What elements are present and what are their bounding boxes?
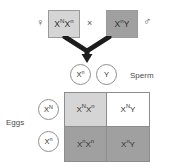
egg-gamete-1-label: XN [44, 105, 53, 114]
punnett-cell-3-label: XnXn [77, 140, 94, 149]
eggs-axis-label: Eggs [6, 118, 24, 127]
mother-genotype-label: XNXn [54, 19, 74, 29]
meiosis-arrow-icon [62, 36, 114, 64]
punnett-cell-affected-female: XnXn [65, 127, 107, 161]
punnett-cell-4-label: XnY [121, 140, 135, 149]
father-genotype-box: XnY [106, 10, 138, 38]
father-genotype-label: XnY [114, 19, 129, 29]
egg-gamete-2-label: Xn [44, 137, 52, 146]
sperm-gamete-xn: Xn [70, 64, 91, 85]
punnett-cell-normal-male: XNY [107, 93, 149, 127]
punnett-cell-2-label: XNY [121, 105, 136, 114]
punnett-cell-1-label: XNXn [76, 105, 94, 114]
sperm-gamete-2-label: Y [104, 70, 109, 79]
mother-allele-2: n [70, 17, 74, 24]
male-mars-symbol: ♂ [143, 16, 151, 27]
egg-gamete-xn-recessive: Xn [38, 131, 59, 152]
punnett-square-diagram: ♀ XNXn × XnY ♂ Xn Y Sperm XN Xn Eggs XNX… [0, 0, 174, 168]
sperm-axis-label: Sperm [130, 71, 154, 80]
punnett-cell-carrier-female: XNXn [65, 93, 107, 127]
sperm-gamete-1-label: Xn [76, 70, 84, 79]
sperm-gamete-y: Y [96, 64, 117, 85]
punnett-cell-affected-male: XnY [107, 127, 149, 161]
punnett-grid: XNXn XNY XnXn XnY [64, 92, 150, 162]
egg-gamete-xn-dominant: XN [38, 99, 59, 120]
female-venus-symbol: ♀ [36, 17, 44, 28]
cross-multiplication-symbol: × [87, 18, 92, 28]
mother-genotype-box: XNXn [48, 10, 80, 38]
